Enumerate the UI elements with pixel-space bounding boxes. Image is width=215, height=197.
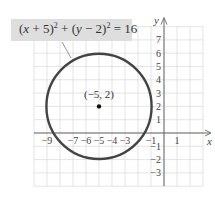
y-tick-label: −3	[150, 167, 161, 178]
leader-line	[62, 42, 71, 58]
x-tick-label: −4	[107, 135, 118, 146]
x-tick-label: −9	[42, 135, 53, 146]
y-tick-label: 7	[156, 34, 161, 45]
axes	[34, 18, 211, 187]
eq-x-term: + 5)	[29, 21, 54, 36]
eq-y-term: − 2)	[82, 21, 107, 36]
x-tick-label: 1	[175, 135, 180, 146]
y-tick-label: 4	[156, 74, 161, 85]
y-tick-label: 6	[156, 48, 161, 59]
x-tick-label: −6	[81, 135, 92, 146]
x-tick-label: −3	[120, 135, 131, 146]
y-tick-label: −1	[150, 141, 161, 152]
center-point-label: (−5, 2)	[84, 88, 114, 101]
eq-rhs: = 16	[110, 21, 137, 36]
y-tick-label: 1	[156, 114, 161, 125]
eq-exponent: 2	[54, 21, 58, 30]
x-tick-label: −7	[68, 135, 79, 146]
y-tick-label: 2	[156, 101, 161, 112]
y-axis-label: y	[153, 14, 159, 26]
x-axis-label: x	[206, 135, 212, 147]
y-tick-label: 5	[156, 61, 161, 72]
x-tick-label: −5	[94, 135, 105, 146]
grid-lines	[34, 27, 203, 187]
center-point	[97, 104, 101, 108]
y-tick-label: 3	[156, 88, 161, 99]
equation-label: (x + 5)2 + (y − 2)2 = 16	[19, 21, 137, 37]
y-tick-label: −2	[150, 154, 161, 165]
